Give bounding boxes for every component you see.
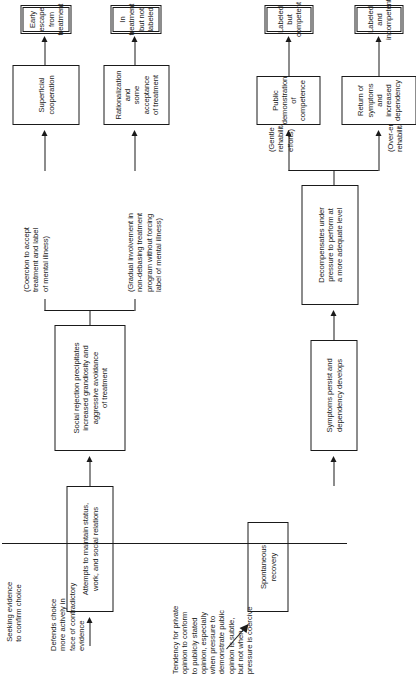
node-labeled-incompetent: Labeled and incompetent bbox=[356, 7, 401, 32]
connector-c1-c2-arrowhead-lower bbox=[330, 456, 336, 462]
commentary-defends-choice: Defends choice more actively in face of … bbox=[49, 542, 86, 651]
node-return-symptoms: Return of symptoms and increased depende… bbox=[341, 76, 416, 125]
node-decompensates: Decompensates under pressure to perform … bbox=[301, 185, 358, 305]
connector-coercion-line bbox=[44, 135, 45, 171]
connector-rationalization-intreatment-arrowhead bbox=[131, 36, 137, 42]
node-labeled-competent: Labeled but competent bbox=[266, 7, 311, 32]
annotation-gradual-involvement: (Gradual involvement in non-debasing tre… bbox=[125, 167, 162, 292]
connector-gradual-line bbox=[134, 135, 135, 171]
node-superficial-cooperation: Superficial cooperation bbox=[12, 65, 79, 125]
connector-c2-c3-line bbox=[333, 315, 334, 340]
commentary-tendency-conform: Tendency for private opinion to conform … bbox=[171, 565, 254, 674]
connector-c2-c3-arrowhead bbox=[330, 310, 336, 316]
node-early-escape: Early escape from treatment bbox=[22, 7, 69, 32]
connector-public-labeled-line bbox=[288, 41, 289, 76]
connector-coercion-arrowhead bbox=[41, 130, 47, 136]
annotation-coercion: (Coercion to accept treatment and label … bbox=[21, 180, 49, 292]
connector-gentle-line bbox=[288, 135, 289, 159]
commentary-band: Seeking evidence to confirm choice Defen… bbox=[0, 545, 349, 654]
node-public-demonstration: Public demonstration of competence bbox=[256, 76, 320, 125]
node-symptoms-persist: Symptoms persist and dependency develops bbox=[310, 340, 357, 451]
commentary-seeking-evidence: Seeking evidence to confirm choice bbox=[5, 533, 24, 642]
connector-gradual-arrowhead bbox=[131, 130, 137, 136]
connector-c1-c2-line bbox=[89, 461, 90, 486]
connector-superficial-escape-arrowhead bbox=[41, 36, 47, 42]
connector-overenthusiastic-arrowhead bbox=[375, 130, 381, 136]
connector-gentle-arrowhead bbox=[285, 130, 291, 136]
node-rationalization: Rationalization and some acceptance of t… bbox=[103, 65, 169, 125]
node-social-rejection: Social rejection precipitates increased … bbox=[54, 325, 125, 451]
connector-c1-c2-line-lower bbox=[333, 461, 334, 486]
connector-c1-c2-arrowhead bbox=[86, 456, 92, 462]
connector-overenthusiastic-line bbox=[378, 135, 379, 159]
connector-superficial-escape-line bbox=[44, 41, 45, 65]
node-in-treatment: In treatment but not labeled bbox=[112, 7, 159, 32]
connector-rationalization-intreatment-line bbox=[134, 41, 135, 65]
connector-return-labeled-line bbox=[378, 41, 379, 76]
